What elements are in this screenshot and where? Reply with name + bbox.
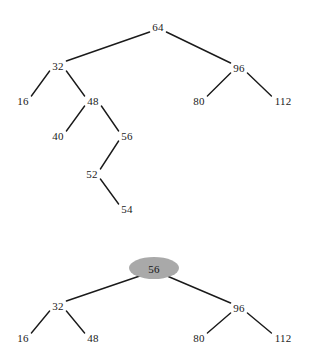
tree-node-80: 80 (193, 96, 204, 107)
tree-node-64: 64 (152, 22, 163, 33)
tree-node-112: 112 (275, 96, 292, 107)
tree-node-56: 56 (121, 131, 132, 142)
tree-node-96: 96 (233, 303, 244, 314)
tree-node-48: 48 (87, 333, 98, 344)
tree-node-54: 54 (121, 204, 132, 215)
tree-node-112: 112 (275, 333, 292, 344)
tree-node-16: 16 (17, 96, 28, 107)
tree-node-48: 48 (87, 96, 98, 107)
binary-tree-figure: 64329616488011240565254563296164880112 (0, 0, 310, 349)
tree-node-32: 32 (52, 61, 63, 72)
tree-nodes-layer: 64329616488011240565254563296164880112 (0, 0, 310, 349)
tree-node-52: 52 (86, 169, 97, 180)
tree-node-16: 16 (17, 333, 28, 344)
tree-node-32: 32 (52, 301, 63, 312)
tree-node-56-highlighted: 56 (148, 264, 159, 275)
tree-node-80: 80 (193, 333, 204, 344)
tree-node-40: 40 (52, 131, 63, 142)
tree-node-96: 96 (233, 63, 244, 74)
